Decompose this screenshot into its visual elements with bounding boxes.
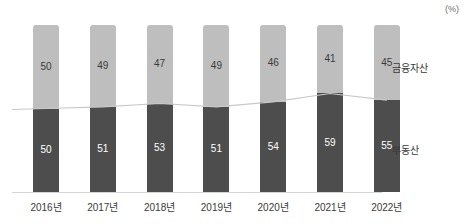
plot-area: 5050495147534951465441594555 2016년2017년2… (0, 0, 467, 224)
bar-group: 5050 (33, 25, 59, 192)
bar-stack: 4951 (203, 25, 229, 192)
bar-stack: 4753 (147, 25, 173, 192)
bar-value-label: 46 (268, 58, 279, 68)
bar-value-label: 54 (268, 142, 279, 152)
x-axis-tick-label: 2018년 (130, 199, 190, 214)
bar-value-label: 51 (211, 144, 222, 154)
stacked-bar-chart: (%) 5050495147534951465441594555 2016년20… (0, 0, 467, 224)
x-axis-tick-label: 2017년 (73, 199, 133, 214)
bar-value-label: 51 (97, 144, 108, 154)
bar-value-label: 55 (381, 141, 392, 151)
bar-stack: 5050 (33, 25, 59, 192)
bar-group: 4555 (374, 25, 400, 192)
bar-segment-financial-assets: 41 (317, 25, 343, 93)
bar-group: 4753 (147, 25, 173, 192)
bar-stack: 4555 (374, 25, 400, 192)
bar-stack: 4159 (317, 25, 343, 192)
bar-value-label: 41 (324, 54, 335, 64)
bar-group: 4951 (203, 25, 229, 192)
bar-segment-real-estate: 50 (33, 109, 59, 193)
bar-segment-financial-assets: 47 (147, 25, 173, 103)
bar-value-label: 50 (40, 62, 51, 72)
bar-segment-real-estate: 59 (317, 93, 343, 192)
bar-segment-real-estate: 51 (90, 107, 116, 192)
bar-segment-real-estate: 54 (260, 102, 286, 192)
bar-value-label: 47 (154, 59, 165, 69)
bar-stack: 4654 (260, 25, 286, 192)
bar-value-label: 50 (40, 145, 51, 155)
bar-segment-financial-assets: 50 (33, 25, 59, 109)
bar-value-label: 45 (381, 58, 392, 68)
baseline-axis (12, 192, 382, 193)
bar-value-label: 49 (97, 61, 108, 71)
bar-segment-financial-assets: 49 (203, 25, 229, 107)
bar-stack: 4951 (90, 25, 116, 192)
x-axis-tick-label: 2022년 (357, 199, 417, 214)
bar-segment-real-estate: 53 (147, 104, 173, 193)
x-axis-tick-label: 2016년 (16, 199, 76, 214)
bar-segment-real-estate: 51 (203, 107, 229, 192)
bar-segment-financial-assets: 46 (260, 25, 286, 102)
bar-value-label: 59 (324, 138, 335, 148)
bar-group: 4654 (260, 25, 286, 192)
x-axis-tick-label: 2021년 (300, 199, 360, 214)
bar-segment-financial-assets: 49 (90, 25, 116, 107)
bar-value-label: 53 (154, 143, 165, 153)
bar-group: 4951 (90, 25, 116, 192)
legend-label-financial-assets: 금융자산 (392, 60, 428, 75)
x-axis-tick-label: 2019년 (186, 199, 246, 214)
legend-label-real-estate: 부동산 (392, 142, 419, 157)
bar-value-label: 49 (211, 61, 222, 71)
x-axis-tick-label: 2020년 (243, 199, 303, 214)
bar-group: 4159 (317, 25, 343, 192)
